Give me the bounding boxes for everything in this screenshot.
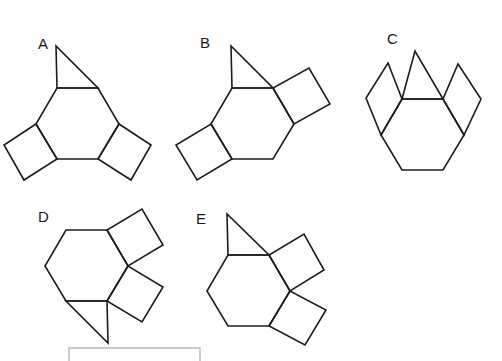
figure-a-square-lower-right [98, 124, 151, 180]
figure-a-shape [4, 46, 151, 180]
footer-frame [69, 348, 200, 361]
figure-c-square-upper-left [366, 63, 402, 135]
figure-a-triangle-top [56, 46, 98, 88]
figure-b-square-upper-right [273, 68, 330, 124]
figure-d-hexagon [45, 230, 128, 301]
figure-c-hexagon [381, 99, 464, 170]
figure-a-hexagon [36, 88, 119, 159]
figure-b-triangle-top [231, 46, 273, 88]
figure-e-shape [207, 214, 326, 345]
figure-label-c: C [387, 31, 398, 46]
figure-d-shape [45, 209, 163, 343]
figure-e-square-lower-right [269, 291, 326, 345]
figure-b-shape [176, 46, 330, 180]
figure-c-square-upper-right [443, 64, 481, 135]
figure-label-a: A [38, 36, 48, 51]
figure-label-d: D [38, 209, 49, 224]
figure-canvas [0, 0, 502, 361]
figure-e-square-upper-right [269, 234, 324, 291]
figure-b-hexagon [211, 88, 294, 159]
figure-c-triangle-top [402, 51, 443, 99]
figure-d-triangle-bottom [66, 301, 108, 343]
figure-b-square-lower-left [176, 124, 232, 180]
figure-a-square-lower-left [4, 124, 57, 180]
figure-e-hexagon [207, 255, 290, 326]
figure-label-b: B [200, 35, 210, 50]
figure-d-square-lower-right [107, 266, 163, 322]
figure-label-e: E [196, 211, 206, 226]
figure-panel: A B C D E [0, 0, 502, 361]
figure-d-square-upper-right [107, 209, 163, 266]
figure-e-triangle-top [227, 214, 269, 255]
figure-c-shape [366, 51, 481, 170]
